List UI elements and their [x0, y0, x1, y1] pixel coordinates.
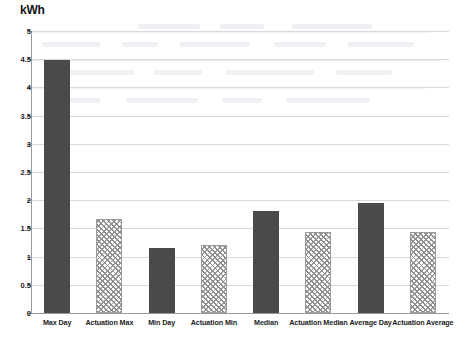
y-tick-label: 0	[5, 309, 31, 318]
x-tick-label: Min Day	[148, 318, 175, 327]
bar-series	[31, 31, 449, 313]
bar-chart: kWh 00.511.522.533.544.55 Max DayActuati…	[0, 0, 457, 347]
x-tick-label: Actuation Median	[289, 318, 347, 327]
x-tick-label: Actuation Min	[191, 318, 237, 327]
bar-slot	[136, 31, 188, 313]
y-tick-label: 0.5	[5, 280, 31, 289]
x-tick-label: Median	[254, 318, 278, 327]
y-tick-label: 1	[5, 252, 31, 261]
x-tick-label: Max Day	[43, 318, 71, 327]
y-axis-ticks: 00.511.522.533.544.55	[0, 0, 31, 347]
bar	[253, 211, 279, 313]
y-tick-label: 2	[5, 196, 31, 205]
bar-slot	[188, 31, 240, 313]
y-tick-label: 5	[5, 27, 31, 36]
x-tick-label: Actuation Average	[392, 318, 453, 327]
bar-slot	[345, 31, 397, 313]
bar	[358, 203, 384, 313]
y-tick-label: 2.5	[5, 168, 31, 177]
x-tick-label: Actuation Max	[85, 318, 133, 327]
bar	[410, 232, 436, 313]
bar	[44, 60, 70, 313]
bar-slot	[240, 31, 292, 313]
bar-slot	[397, 31, 449, 313]
y-tick-label: 4.5	[5, 55, 31, 64]
bar-slot	[31, 31, 83, 313]
y-tick-label: 1.5	[5, 224, 31, 233]
bar-slot	[83, 31, 135, 313]
bar-slot	[292, 31, 344, 313]
y-tick-label: 4	[5, 83, 31, 92]
y-tick-label: 3	[5, 139, 31, 148]
bar	[149, 248, 175, 313]
bar	[201, 245, 227, 313]
x-axis-category-labels: Max DayActuation MaxMin DayActuation Min…	[31, 318, 449, 342]
bar	[305, 232, 331, 313]
bar	[96, 219, 122, 313]
y-tick-label: 3.5	[5, 111, 31, 120]
x-tick-label: Average Day	[350, 318, 392, 327]
gridline	[31, 313, 449, 314]
